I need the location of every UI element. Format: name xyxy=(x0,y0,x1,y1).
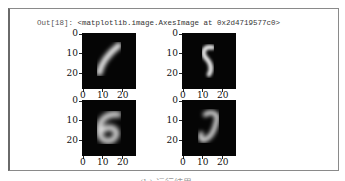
ytick: 0 xyxy=(172,29,178,38)
ytick: 20 xyxy=(67,136,78,145)
xtick: 20 xyxy=(217,158,228,167)
ytick: 10 xyxy=(167,49,178,58)
xtick: 0 xyxy=(80,158,86,167)
ytick: 20 xyxy=(67,69,78,78)
digit-image-3 xyxy=(82,100,136,156)
subplot-4: 0 10 20 0 10 20 xyxy=(182,100,236,156)
digit-image-1 xyxy=(82,33,136,89)
xtick: 10 xyxy=(197,91,208,100)
subplot-2: 0 10 20 0 10 20 xyxy=(182,33,236,89)
digit-image-2 xyxy=(182,33,236,89)
xtick: 0 xyxy=(80,91,86,100)
xtick: 0 xyxy=(180,158,186,167)
ytick: 0 xyxy=(72,96,78,105)
subplot-1: 0 10 20 0 10 20 xyxy=(82,33,136,89)
output-repr-line: Out[18]: <matplotlib.image.AxesImage at … xyxy=(37,19,280,27)
ytick: 0 xyxy=(72,29,78,38)
ytick: 10 xyxy=(67,49,78,58)
ytick: 20 xyxy=(167,136,178,145)
subplot-3: 0 10 20 0 10 20 xyxy=(82,100,136,156)
ytick: 10 xyxy=(67,116,78,125)
xtick: 20 xyxy=(217,91,228,100)
xtick: 10 xyxy=(97,91,108,100)
output-repr-text: <matplotlib.image.AxesImage at 0x2d47195… xyxy=(78,19,281,27)
xtick: 20 xyxy=(117,91,128,100)
xtick: 10 xyxy=(197,158,208,167)
ytick: 0 xyxy=(172,96,178,105)
ytick: 10 xyxy=(167,116,178,125)
ytick: 20 xyxy=(167,69,178,78)
digit-image-4 xyxy=(182,100,236,156)
xtick: 10 xyxy=(97,158,108,167)
figure-caption: (b) 运行结果 xyxy=(140,176,192,181)
output-prompt: Out[18]: xyxy=(37,19,73,27)
xtick: 20 xyxy=(117,158,128,167)
xtick: 0 xyxy=(180,91,186,100)
